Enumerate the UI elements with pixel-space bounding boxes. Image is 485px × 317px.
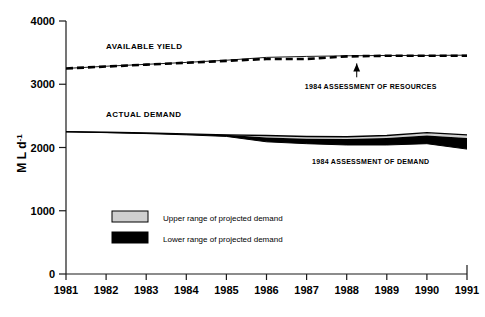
- x-axis-tick-label: 1990: [415, 284, 439, 296]
- x-axis-tick-label: 1985: [214, 284, 238, 296]
- annotation-arrow-head: [353, 63, 360, 71]
- legend-swatch: [112, 211, 148, 222]
- chart-annotations: AVAILABLE YIELDACTUAL DEMAND1984 ASSESSM…: [106, 42, 437, 165]
- legend-label-text: Upper range of projected demand: [163, 214, 283, 223]
- y-axis-tick-label: 0: [49, 268, 55, 280]
- chart-canvas: 0100020003000400019811982198319841985198…: [0, 0, 485, 317]
- series-label-text: ACTUAL DEMAND: [106, 110, 181, 119]
- x-axis-tick-label: 1981: [54, 284, 78, 296]
- available-yield-dashed-line: [66, 56, 467, 69]
- x-axis-tick-label: 1982: [94, 284, 118, 296]
- x-axis-tick-label: 1986: [254, 284, 278, 296]
- y-axis-tick-label: 4000: [31, 15, 55, 27]
- annotation-text: 1984 ASSESSMENT OF DEMAND: [312, 158, 429, 165]
- chart-figure: 0100020003000400019811982198319841985198…: [0, 0, 485, 317]
- x-axis-tick-label: 1989: [375, 284, 399, 296]
- chart-legend: Upper range of projected demandLower ran…: [112, 211, 283, 244]
- x-axis-tick-label: 1984: [174, 284, 199, 296]
- annotation-text: 1984 ASSESSMENT OF RESOURCES: [305, 83, 437, 90]
- y-axis-title-base: M L d: [15, 142, 29, 173]
- x-axis-tick-label: 1988: [334, 284, 358, 296]
- x-axis-tick-label: 1983: [134, 284, 158, 296]
- legend-label-text: Lower range of projected demand: [163, 235, 283, 244]
- chart-axes: 0100020003000400019811982198319841985198…: [31, 15, 480, 296]
- y-axis-tick-label: 1000: [31, 205, 55, 217]
- x-axis-tick-label: 1987: [294, 284, 318, 296]
- y-axis-tick-label: 2000: [31, 142, 55, 154]
- y-axis-title-group: M L d-1: [15, 134, 29, 173]
- y-axis-title-text: M L d-1: [15, 134, 29, 173]
- legend-swatch: [112, 232, 148, 243]
- y-axis-tick-label: 3000: [31, 78, 55, 90]
- series-label-text: AVAILABLE YIELD: [106, 42, 182, 51]
- chart-y-axis-title: M L d-1: [15, 134, 29, 173]
- x-axis-tick-label: 1991: [455, 284, 479, 296]
- y-axis-title-exponent: -1: [15, 134, 24, 142]
